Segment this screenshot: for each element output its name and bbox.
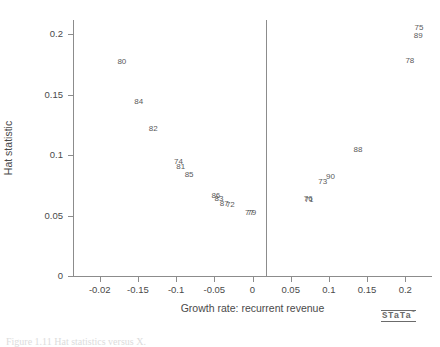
data-point-label: 71 <box>305 196 314 204</box>
y-axis-line <box>73 20 74 277</box>
stata-logo: STaTa™ <box>381 310 416 322</box>
y-tick-label: 0.05 <box>45 211 64 221</box>
data-point-label: 73 <box>318 178 327 186</box>
y-tick-mark <box>68 216 73 217</box>
data-point-label: 82 <box>149 125 158 133</box>
y-tick-label: 0.2 <box>50 30 63 40</box>
x-tick-label: 0.15 <box>358 285 377 295</box>
x-tick-label: 0.2 <box>399 285 412 295</box>
x-tick-label: -0.05 <box>203 285 225 295</box>
y-tick-mark <box>68 34 73 35</box>
y-tick-mark <box>68 95 73 96</box>
data-point-label: 88 <box>353 146 362 154</box>
x-tick-mark <box>176 277 177 282</box>
vertical-reference-line <box>266 20 267 277</box>
y-axis-title: Hat statistic <box>3 121 14 175</box>
x-tick-label: -0.15 <box>127 285 149 295</box>
y-tick-mark <box>68 155 73 156</box>
stata-logo-text: STaTa <box>382 311 412 321</box>
scatter-plot-figure: 00.050.10.150.2 -0.02-0.15-0.1-0.0500.05… <box>0 0 440 347</box>
x-tick-mark <box>214 277 215 282</box>
x-tick-label: -0.1 <box>168 285 184 295</box>
x-tick-mark <box>253 277 254 282</box>
data-point-label: 78 <box>405 57 414 65</box>
data-point-label: 80 <box>117 58 126 66</box>
trademark-mark: ™ <box>412 310 416 316</box>
x-tick-label: -0.02 <box>89 285 111 295</box>
x-axis-title: Growth rate: recurrent revenue <box>73 303 432 314</box>
y-tick-label: 0.15 <box>45 90 64 100</box>
x-tick-mark <box>367 277 368 282</box>
x-tick-label: 0.05 <box>281 285 300 295</box>
y-tick-mark <box>68 276 73 277</box>
data-point-label: 85 <box>185 171 194 179</box>
x-tick-mark <box>291 277 292 282</box>
x-tick-mark <box>405 277 406 282</box>
x-tick-mark <box>100 277 101 282</box>
x-tick-mark <box>138 277 139 282</box>
x-tick-mark <box>329 277 330 282</box>
y-tick-label: 0.1 <box>50 150 63 160</box>
x-tick-label: 0.1 <box>322 285 335 295</box>
data-point-label: 79 <box>247 209 256 217</box>
figure-caption: Figure 1.11 Hat statistics versus X. <box>6 337 146 347</box>
y-tick-label: 0 <box>58 271 63 281</box>
data-point-label: 89 <box>414 32 423 40</box>
data-point-label: 84 <box>134 98 143 106</box>
x-tick-label: 0 <box>250 285 255 295</box>
data-point-label: 72 <box>226 201 235 209</box>
